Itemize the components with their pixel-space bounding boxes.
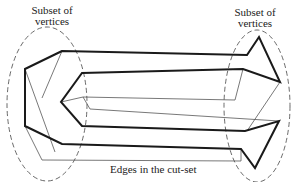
right-subset-label: Subset of vertices (225, 7, 285, 29)
cut-set-diagram: Subset of vertices Subset of vertices Ed… (0, 0, 297, 182)
right-vertex-subset-ellipse (224, 30, 290, 182)
left-subset-label-line2: vertices (22, 16, 82, 27)
left-vertex-subset-ellipse (7, 27, 87, 181)
cut-set-label: Edges in the cut-set (110, 164, 260, 175)
left-subset-label: Subset of vertices (22, 5, 82, 27)
thick-edge-cycle (25, 37, 280, 168)
right-subset-label-line2: vertices (225, 18, 285, 29)
